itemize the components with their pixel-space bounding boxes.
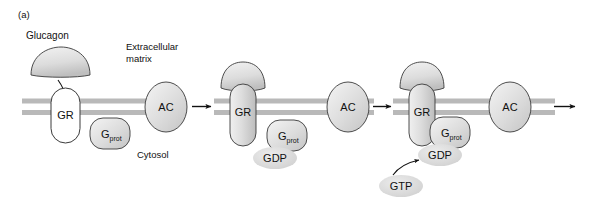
receptor-gr-label-stage-3: GR (414, 106, 431, 118)
signal-transduction-diagram: (a) Glucagon Extracellular matrix GR Gpr… (0, 0, 591, 204)
gprotein-sub-stage-3: prot (450, 134, 462, 142)
gprotein-label-stage-1: G (101, 128, 110, 140)
glucagon-ligand (31, 47, 90, 77)
gprotein-sub-stage-2: prot (287, 137, 299, 145)
stage-2-group: GR Gprot GDP AC (221, 62, 369, 169)
gdp-label-stage-3: GDP (428, 149, 452, 161)
gprotein-stage-3 (430, 117, 470, 148)
gprotein-stage-2 (267, 120, 307, 151)
figure-canvas: (a) Glucagon Extracellular matrix GR Gpr… (0, 0, 591, 204)
gprotein-stage-1 (90, 118, 130, 149)
gtp-entry-arrow (393, 160, 419, 175)
effector-ac-label-stage-1: AC (158, 101, 173, 113)
extracellular-matrix-label-line1: Extracellular (126, 41, 178, 52)
glucagon-label: Glucagon (26, 30, 69, 41)
receptor-gr-label-stage-2: GR (235, 106, 252, 118)
extracellular-matrix-label-line2: matrix (126, 53, 152, 64)
stage-3-group: GR Gprot GDP GTP AC (379, 62, 531, 197)
effector-ac-label-stage-2: AC (340, 101, 355, 113)
gtp-label: GTP (390, 180, 413, 192)
receptor-gr-label-stage-1: GR (57, 109, 74, 121)
cytosol-label: Cytosol (137, 149, 169, 160)
stage-1-group: Glucagon Extracellular matrix GR Gprot A… (26, 30, 187, 160)
gdp-label-stage-2: GDP (263, 152, 287, 164)
effector-ac-label-stage-3: AC (502, 101, 517, 113)
gprotein-label-stage-3: G (441, 127, 450, 139)
panel-label: (a) (18, 9, 30, 20)
gprotein-sub-stage-1: prot (110, 135, 122, 143)
gprotein-label-stage-2: G (278, 130, 287, 142)
